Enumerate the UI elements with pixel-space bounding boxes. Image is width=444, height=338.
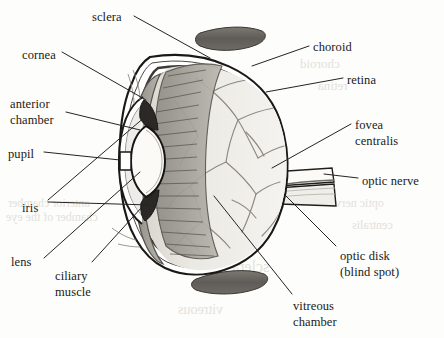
leader-cornea	[62, 52, 146, 100]
label-text-line2: chamber	[293, 314, 337, 330]
label-pupil: pupil	[8, 147, 34, 162]
label-text: sclera	[92, 10, 122, 25]
label-cornea: cornea	[22, 48, 56, 63]
label-text: pupil	[8, 147, 34, 162]
label-text-line2: (blind spot)	[340, 264, 399, 280]
label-choroid: choroid	[313, 40, 352, 55]
label-optic-nerve: optic nerve	[362, 174, 419, 189]
label-text-line2: muscle	[55, 284, 91, 300]
label-text-line2: chamber	[10, 112, 54, 128]
label-iris: iris	[22, 201, 38, 216]
label-text: retina	[347, 73, 376, 88]
label-anterior-chamber: anteriorchamber	[10, 96, 54, 128]
extraocular-muscle-superior	[196, 27, 266, 50]
label-text: iris	[22, 201, 38, 216]
eye-anatomy-figure: choroidretinaanterior chamberchamber of …	[0, 0, 444, 338]
label-optic-disk: optic disk(blind spot)	[340, 248, 399, 280]
label-text: anterior	[10, 96, 54, 112]
label-text: optic disk	[340, 248, 399, 264]
label-text: lens	[11, 255, 32, 270]
leader-retina	[266, 78, 343, 92]
label-text: vitreous	[293, 298, 337, 314]
label-text-line2: centralis	[355, 133, 398, 149]
leader-pupil	[44, 152, 120, 160]
label-sclera: sclera	[92, 10, 122, 25]
label-text: optic nerve	[362, 174, 419, 189]
label-lens: lens	[11, 255, 32, 270]
label-text: fovea	[355, 117, 398, 133]
label-vitreous-chamber: vitreouschamber	[293, 298, 337, 330]
label-fovea-centralis: foveacentralis	[355, 117, 398, 149]
label-text: choroid	[313, 40, 352, 55]
label-retina: retina	[347, 73, 376, 88]
label-ciliary-muscle: ciliarymuscle	[55, 268, 91, 300]
label-text: cornea	[22, 48, 56, 63]
leader-choroid	[252, 46, 309, 66]
label-text: ciliary	[55, 268, 91, 284]
